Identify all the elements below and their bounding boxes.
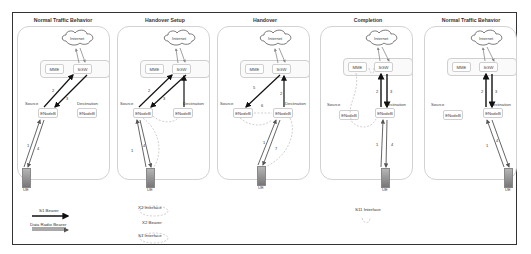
step-number: 1: [263, 140, 265, 145]
internet-label: Internet: [268, 36, 282, 41]
step-number: 1: [486, 143, 488, 148]
legend-x2-interface: X2 Interface: [138, 205, 162, 210]
legend-x2-bearer: X2 Bearer: [142, 220, 162, 225]
step-number: 5: [253, 85, 255, 90]
step-number: 3: [163, 96, 165, 101]
step-number: 1: [131, 148, 133, 153]
step-number: 3: [495, 89, 497, 94]
step-number: 2: [148, 88, 150, 93]
legend-s1-interface: S1 Interface: [138, 233, 162, 238]
internet-label: Internet: [479, 36, 493, 41]
step-number: 1: [27, 143, 29, 148]
step-number: 2: [481, 89, 483, 94]
step-number: 4: [143, 143, 145, 148]
step-number: 1: [376, 142, 378, 147]
legend-s11-interface: S11 Interface: [355, 207, 381, 212]
step-number: 6: [261, 103, 263, 108]
step-number: 4: [391, 142, 393, 147]
internet-label: Internet: [374, 36, 388, 41]
step-number: 3: [66, 96, 68, 101]
step-number: 2: [376, 89, 378, 94]
internet-label: Internet: [70, 36, 84, 41]
step-number: 2: [52, 88, 54, 93]
step-number: 4: [496, 138, 498, 143]
legend-data-radio-bearer: Data Radio Bearer: [30, 222, 66, 227]
step-number: 4: [37, 146, 39, 151]
legend-s1-bearer: S1 Bearer: [39, 208, 59, 213]
step-number: 7: [275, 146, 277, 151]
step-number: 3: [390, 89, 392, 94]
internet-label: Internet: [172, 36, 186, 41]
step-number: 2: [280, 91, 282, 96]
